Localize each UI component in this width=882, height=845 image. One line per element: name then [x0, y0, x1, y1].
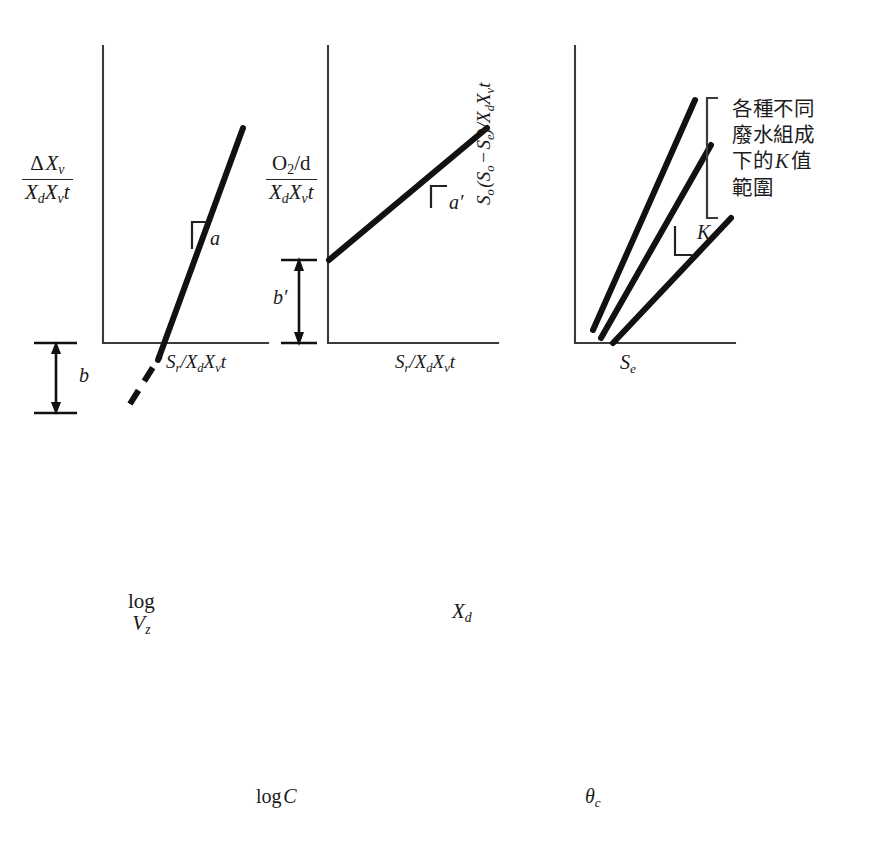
- panel-1-x-axis-label: Sr/XdXvt: [166, 352, 226, 375]
- panel-4-y-axis-label-line-1: log: [128, 590, 155, 612]
- panel-1-intercept-label: b: [79, 365, 89, 386]
- panel-2-intercept-label: b′: [273, 287, 287, 308]
- panel-1-extrapolation-dashed: [130, 356, 160, 404]
- panel-3-slope-label: K: [697, 222, 710, 243]
- panel-4-y-axis-label-line-2: Vz: [128, 612, 155, 638]
- panel-3-range-note: 各種不同 廢水組成 下的K值 範圍: [732, 96, 814, 201]
- panel-1-slope-label: a: [210, 228, 220, 249]
- panel-1-growth-line: [158, 128, 243, 360]
- figure-root: Δ Xv XdXvt Sr/XdXvt a b O2/d XdXvt Sr/Xd…: [0, 0, 882, 845]
- panel-3-graphic: [535, 0, 882, 420]
- panel-3-range-note-line-2: 廢水組成: [732, 122, 814, 148]
- panel-4-graphic: [100, 440, 460, 840]
- panel-2-slope-label: a′: [449, 192, 463, 213]
- panel-3-slope-triangle: [675, 226, 692, 255]
- panel-5-graphic: [430, 440, 790, 840]
- panel-3-range-bracket: [707, 98, 718, 218]
- panel-3-y-axis-label: So (So − Se)/XdXvt: [474, 83, 497, 205]
- panel-3-x-axis-label: Se: [620, 352, 636, 376]
- panel-2-slope-triangle: [431, 186, 447, 208]
- panel-5-y-axis-label: Xd: [452, 600, 472, 626]
- panel-4-x-axis-label: log C: [256, 786, 297, 807]
- panel-5-x-axis-label: θc: [585, 786, 601, 810]
- panel-4-y-axis-label: log Vz: [128, 590, 155, 638]
- panel-3-line-k-high: [593, 100, 695, 330]
- panel-3-range-note-line-4: 範圍: [732, 175, 814, 201]
- panel-1-y-axis-label: Δ Xv XdXvt: [22, 152, 73, 206]
- panel-3-range-note-line-1: 各種不同: [732, 96, 814, 122]
- panel-3-line-k-mid: [601, 145, 711, 338]
- panel-2-y-axis-label: O2/d XdXvt: [266, 152, 317, 206]
- panel-3-range-note-line-3: 下的K值: [732, 148, 814, 174]
- panel-2-x-axis-label: Sr/XdXvt: [395, 352, 455, 375]
